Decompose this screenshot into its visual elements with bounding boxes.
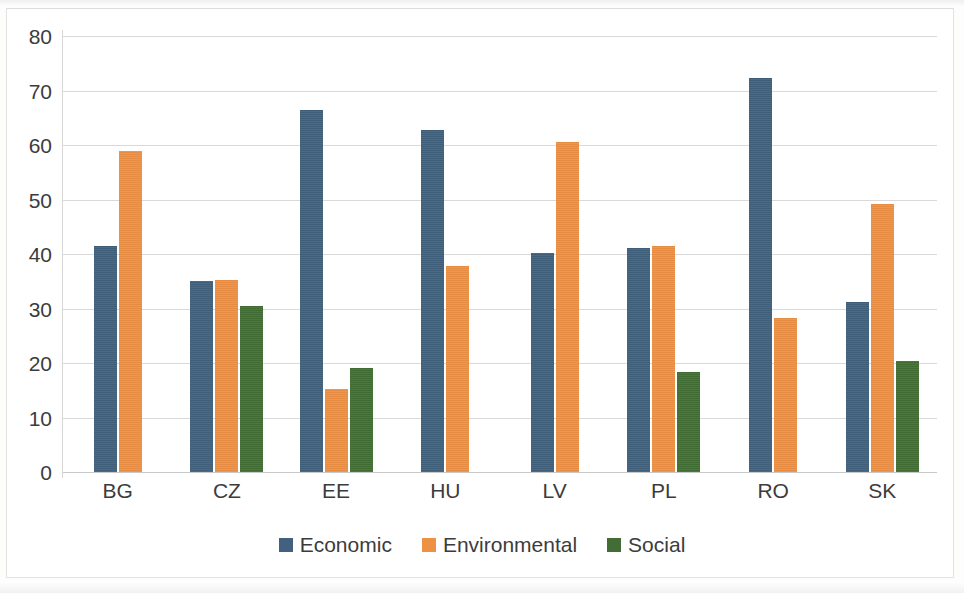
legend-swatch-icon-economic — [279, 538, 293, 552]
y-tick-label-10: 10 — [6, 407, 52, 428]
bar-hu-environmental[interactable] — [446, 266, 469, 472]
scan-edge-top — [0, 0, 964, 7]
bar-bg-economic[interactable] — [94, 246, 117, 472]
y-tick-label-80: 80 — [6, 26, 52, 47]
x-axis-label-cz: CZ — [172, 480, 281, 501]
bar-ee-economic[interactable] — [300, 110, 323, 472]
y-tick-label-0: 0 — [6, 462, 52, 483]
x-axis-label-ro: RO — [719, 480, 828, 501]
bar-group-sk — [828, 36, 937, 472]
x-axis-label-sk: SK — [828, 480, 937, 501]
bar-group-hu — [391, 36, 500, 472]
bar-ee-social[interactable] — [350, 368, 373, 472]
plot-area — [63, 36, 937, 472]
bar-sk-social[interactable] — [896, 361, 919, 472]
x-axis-label-lv: LV — [500, 480, 609, 501]
x-axis-label-ee: EE — [282, 480, 391, 501]
legend-item-economic[interactable]: Economic — [279, 534, 392, 555]
bar-lv-economic[interactable] — [531, 253, 554, 472]
bar-group-ro — [719, 36, 828, 472]
scan-edge-bottom — [0, 581, 964, 593]
legend-label-economic: Economic — [300, 534, 392, 555]
chart-legend: EconomicEnvironmentalSocial — [0, 534, 964, 555]
bar-group-pl — [609, 36, 718, 472]
gridline-0 — [63, 472, 937, 473]
y-tick-label-70: 70 — [6, 80, 52, 101]
legend-swatch-icon-environmental — [422, 538, 436, 552]
bar-groups — [63, 36, 937, 472]
y-tick-label-60: 60 — [6, 135, 52, 156]
bar-cz-environmental[interactable] — [215, 280, 238, 472]
x-axis-category-labels: BGCZEEHULVPLROSK — [63, 480, 937, 501]
y-tick-label-30: 30 — [6, 298, 52, 319]
bar-group-ee — [282, 36, 391, 472]
x-axis-label-bg: BG — [63, 480, 172, 501]
bar-lv-environmental[interactable] — [556, 142, 579, 472]
y-axis-tick-labels: 01020304050607080 — [0, 36, 52, 472]
bar-sk-economic[interactable] — [846, 302, 869, 472]
bar-bg-environmental[interactable] — [119, 151, 142, 472]
y-tick-label-50: 50 — [6, 189, 52, 210]
y-tick-label-20: 20 — [6, 353, 52, 374]
bar-cz-economic[interactable] — [190, 281, 213, 472]
x-axis-label-pl: PL — [609, 480, 718, 501]
bar-ee-environmental[interactable] — [325, 389, 348, 472]
bar-chart-figure: 01020304050607080 BGCZEEHULVPLROSK Econo… — [0, 0, 964, 593]
legend-label-environmental: Environmental — [443, 534, 577, 555]
bar-pl-economic[interactable] — [627, 248, 650, 472]
bar-group-cz — [172, 36, 281, 472]
x-axis-label-hu: HU — [391, 480, 500, 501]
bar-hu-economic[interactable] — [421, 130, 444, 472]
legend-label-social: Social — [628, 534, 685, 555]
bar-sk-environmental[interactable] — [871, 204, 894, 472]
bar-group-lv — [500, 36, 609, 472]
bar-cz-social[interactable] — [240, 306, 263, 472]
y-tick-label-40: 40 — [6, 244, 52, 265]
legend-item-social[interactable]: Social — [607, 534, 685, 555]
bar-group-bg — [63, 36, 172, 472]
bar-ro-economic[interactable] — [749, 78, 772, 472]
bar-pl-environmental[interactable] — [652, 246, 675, 472]
legend-item-environmental[interactable]: Environmental — [422, 534, 577, 555]
legend-swatch-icon-social — [607, 538, 621, 552]
bar-pl-social[interactable] — [677, 372, 700, 472]
bar-ro-environmental[interactable] — [774, 318, 797, 472]
